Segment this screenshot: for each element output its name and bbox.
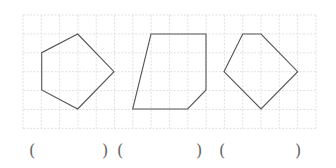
answer-1-close-paren: ) <box>102 141 108 161</box>
answer-3-open-paren: ( <box>219 141 225 161</box>
grid-figure <box>0 0 336 168</box>
answer-3-close-paren: ) <box>295 141 301 161</box>
answer-2-open-paren: ( <box>117 141 123 161</box>
grid-lines <box>23 15 316 128</box>
answer-2-close-paren: ) <box>196 141 202 161</box>
answer-1-open-paren: ( <box>29 141 35 161</box>
